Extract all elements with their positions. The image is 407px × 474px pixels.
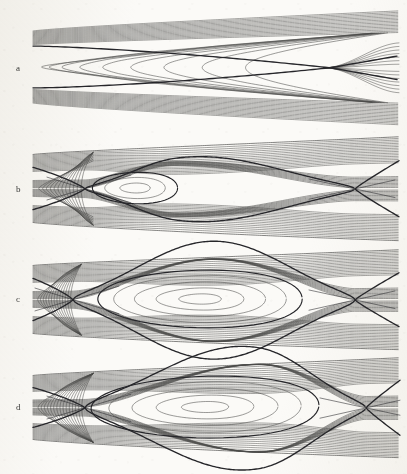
panel-label-d: d bbox=[16, 402, 21, 412]
streamline-figure: a b c d bbox=[0, 0, 407, 474]
panel-d-plot bbox=[0, 0, 407, 474]
